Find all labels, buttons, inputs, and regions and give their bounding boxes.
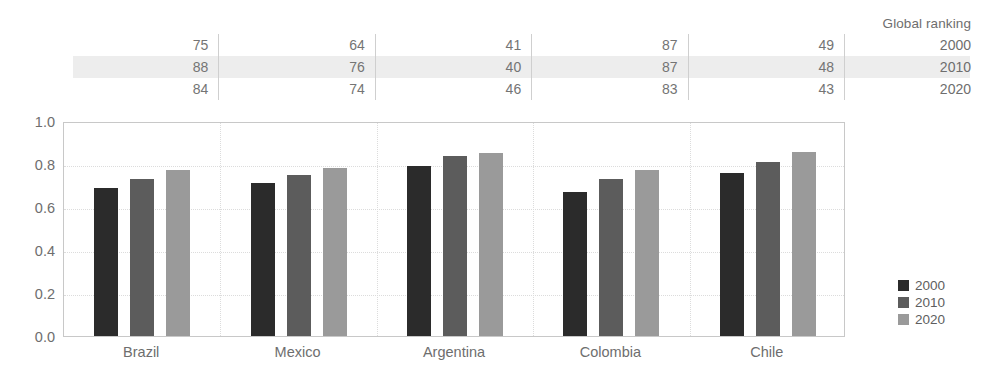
category-label: Colombia <box>532 344 688 360</box>
ranking-value: 64 <box>219 34 375 56</box>
bar-group <box>64 123 220 336</box>
y-axis-tick-label: 1.0 <box>0 114 55 130</box>
bar <box>94 188 118 336</box>
bar <box>563 192 587 336</box>
ranking-value: 87 <box>532 34 688 56</box>
bar <box>443 156 467 336</box>
bar <box>479 153 503 336</box>
global-ranking-table: Global ranking 7564418749200088764087482… <box>0 12 981 112</box>
category-label: Argentina <box>376 344 532 360</box>
bar-group <box>533 123 689 336</box>
bar <box>407 166 431 336</box>
category-label: Mexico <box>219 344 375 360</box>
bar <box>599 179 623 336</box>
ranking-header-label: Global ranking <box>883 16 971 31</box>
ranking-row-year: 2010 <box>940 56 971 78</box>
bar <box>756 162 780 336</box>
chart-legend: 200020102020 <box>898 278 978 329</box>
legend-swatch-icon <box>898 314 909 325</box>
ranking-value: 87 <box>532 56 688 78</box>
ranking-value: 48 <box>689 56 845 78</box>
ranking-row: 75644187492000 <box>0 34 981 56</box>
bar-group <box>220 123 376 336</box>
ranking-value: 40 <box>376 56 532 78</box>
bar-group <box>690 123 845 336</box>
legend-swatch-icon <box>898 280 909 291</box>
plot-wrapper: 1.00.80.60.40.20.0 BrazilMexicoArgentina… <box>0 112 981 377</box>
y-axis-tick-label: 0.4 <box>0 243 55 259</box>
legend-item: 2020 <box>898 312 978 327</box>
ranking-value: 46 <box>376 78 532 100</box>
bar <box>287 175 311 336</box>
bar <box>720 173 744 336</box>
bar <box>166 170 190 336</box>
legend-swatch-icon <box>898 297 909 308</box>
y-axis-tick-label: 0.2 <box>0 286 55 302</box>
ranking-value: 49 <box>689 34 845 56</box>
ranking-row: 88764087482010 <box>0 56 981 78</box>
y-axis-tick-label: 0.0 <box>0 329 55 345</box>
ranking-value: 43 <box>689 78 845 100</box>
bar <box>251 183 275 336</box>
ranking-value: 75 <box>73 34 219 56</box>
ranking-value: 83 <box>532 78 688 100</box>
plot-area <box>63 122 845 337</box>
bar <box>323 168 347 336</box>
category-label: Brazil <box>63 344 219 360</box>
legend-label: 2000 <box>915 278 945 293</box>
ranking-value: 76 <box>219 56 375 78</box>
bar <box>635 170 659 336</box>
ranking-value: 74 <box>219 78 375 100</box>
category-label: Chile <box>689 344 845 360</box>
ranking-row-year: 2020 <box>940 78 971 100</box>
ranking-row: 84744683432020 <box>0 78 981 100</box>
y-axis-tick-label: 0.8 <box>0 157 55 173</box>
legend-label: 2020 <box>915 312 945 327</box>
ranking-row-year: 2000 <box>940 34 971 56</box>
ranking-value: 41 <box>376 34 532 56</box>
legend-item: 2010 <box>898 295 978 310</box>
legend-item: 2000 <box>898 278 978 293</box>
bar-group <box>377 123 533 336</box>
ranking-value: 84 <box>73 78 219 100</box>
chart-figure: Global ranking 7564418749200088764087482… <box>0 0 981 377</box>
bar <box>130 179 154 336</box>
bar <box>792 152 816 336</box>
ranking-value: 88 <box>73 56 219 78</box>
y-axis-tick-label: 0.6 <box>0 200 55 216</box>
legend-label: 2010 <box>915 295 945 310</box>
